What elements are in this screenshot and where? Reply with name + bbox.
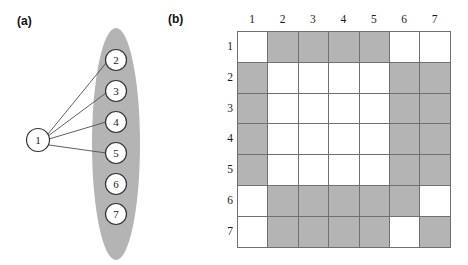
graph-node-3[interactable]: 3 <box>106 81 127 102</box>
adjacency-matrix-panel: 1234567 1234567 <box>214 10 458 255</box>
matrix-cell-1-6[interactable] <box>389 32 419 63</box>
matrix-row-header-7: 7 <box>214 216 233 247</box>
matrix-cell-5-7[interactable] <box>420 155 450 186</box>
graph-svg: 1 2 3 4 5 6 7 <box>0 0 200 265</box>
matrix-cell-6-4[interactable] <box>329 185 359 216</box>
matrix-cell-6-1[interactable] <box>238 185 268 216</box>
matrix-body <box>238 32 451 248</box>
matrix-row-header-2: 2 <box>214 62 233 93</box>
matrix-column-headers: 1234567 <box>237 13 450 29</box>
matrix-cell-5-5[interactable] <box>359 155 389 186</box>
matrix-row-header-3: 3 <box>214 93 233 124</box>
matrix-cell-1-1[interactable] <box>238 32 268 63</box>
matrix-cell-7-5[interactable] <box>359 216 389 247</box>
matrix-cell-1-3[interactable] <box>298 32 328 63</box>
matrix-cell-3-6[interactable] <box>389 93 419 124</box>
matrix-cell-4-7[interactable] <box>420 124 450 155</box>
matrix-cell-4-2[interactable] <box>268 124 298 155</box>
matrix-cell-2-1[interactable] <box>238 62 268 93</box>
matrix-row-headers: 1234567 <box>214 31 233 247</box>
matrix-cell-3-4[interactable] <box>329 93 359 124</box>
matrix-cell-1-7[interactable] <box>420 32 450 63</box>
matrix-cell-5-2[interactable] <box>268 155 298 186</box>
matrix-cell-4-5[interactable] <box>359 124 389 155</box>
matrix-row-header-5: 5 <box>214 154 233 185</box>
matrix-row <box>238 216 451 247</box>
graph-node-1[interactable]: 1 <box>27 129 50 152</box>
graph-node-2-label: 2 <box>113 54 119 66</box>
graph-node-4-label: 4 <box>113 116 119 128</box>
matrix-cell-2-5[interactable] <box>359 62 389 93</box>
matrix-row <box>238 185 451 216</box>
matrix-cell-1-2[interactable] <box>268 32 298 63</box>
graph-node-7[interactable]: 7 <box>106 204 127 225</box>
matrix-cell-7-3[interactable] <box>298 216 328 247</box>
graph-node-2[interactable]: 2 <box>106 50 127 71</box>
matrix-cell-4-1[interactable] <box>238 124 268 155</box>
matrix-cell-6-2[interactable] <box>268 185 298 216</box>
matrix-col-header-5: 5 <box>359 13 389 25</box>
graph-node-6-label: 6 <box>113 178 119 190</box>
graph-node-7-label: 7 <box>113 208 119 220</box>
graph-node-5-label: 5 <box>113 147 119 159</box>
graph-node-5[interactable]: 5 <box>106 143 127 164</box>
matrix-cell-2-2[interactable] <box>268 62 298 93</box>
graph-node-6[interactable]: 6 <box>106 174 127 195</box>
matrix-cell-4-4[interactable] <box>329 124 359 155</box>
matrix-cell-6-5[interactable] <box>359 185 389 216</box>
matrix-cell-3-7[interactable] <box>420 93 450 124</box>
matrix-cell-7-2[interactable] <box>268 216 298 247</box>
matrix-row <box>238 32 451 63</box>
matrix-cell-5-4[interactable] <box>329 155 359 186</box>
matrix-row <box>238 93 451 124</box>
matrix-cell-5-3[interactable] <box>298 155 328 186</box>
matrix-row-header-4: 4 <box>214 123 233 154</box>
matrix-col-header-3: 3 <box>298 13 328 25</box>
matrix-cell-7-7[interactable] <box>420 216 450 247</box>
matrix-cell-1-4[interactable] <box>329 32 359 63</box>
matrix-table <box>237 31 451 248</box>
matrix-cell-3-5[interactable] <box>359 93 389 124</box>
matrix-cell-1-5[interactable] <box>359 32 389 63</box>
matrix-col-header-2: 2 <box>267 13 297 25</box>
matrix-col-header-4: 4 <box>328 13 358 25</box>
matrix-row <box>238 124 451 155</box>
matrix-cell-3-1[interactable] <box>238 93 268 124</box>
matrix-col-header-1: 1 <box>237 13 267 25</box>
matrix-cell-6-6[interactable] <box>389 185 419 216</box>
matrix-cell-5-6[interactable] <box>389 155 419 186</box>
matrix-cell-2-3[interactable] <box>298 62 328 93</box>
graph-node-3-label: 3 <box>113 85 119 97</box>
matrix-row-header-6: 6 <box>214 185 233 216</box>
matrix-row <box>238 155 451 186</box>
matrix-cell-4-6[interactable] <box>389 124 419 155</box>
matrix-cell-5-1[interactable] <box>238 155 268 186</box>
graph-node-1-label: 1 <box>35 134 41 146</box>
matrix-cell-2-4[interactable] <box>329 62 359 93</box>
matrix-grid-wrapper <box>237 31 451 248</box>
matrix-cell-3-2[interactable] <box>268 93 298 124</box>
matrix-cell-6-3[interactable] <box>298 185 328 216</box>
matrix-row-header-1: 1 <box>214 31 233 62</box>
graph-diagram-panel: 1 2 3 4 5 6 7 <box>0 0 200 265</box>
matrix-cell-7-4[interactable] <box>329 216 359 247</box>
matrix-cell-7-6[interactable] <box>389 216 419 247</box>
matrix-cell-7-1[interactable] <box>238 216 268 247</box>
matrix-cell-6-7[interactable] <box>420 185 450 216</box>
matrix-cell-3-3[interactable] <box>298 93 328 124</box>
matrix-cell-2-6[interactable] <box>389 62 419 93</box>
matrix-col-header-6: 6 <box>389 13 419 25</box>
matrix-row <box>238 62 451 93</box>
matrix-cell-2-7[interactable] <box>420 62 450 93</box>
graph-node-4[interactable]: 4 <box>106 112 127 133</box>
matrix-col-header-7: 7 <box>419 13 449 25</box>
matrix-cell-4-3[interactable] <box>298 124 328 155</box>
